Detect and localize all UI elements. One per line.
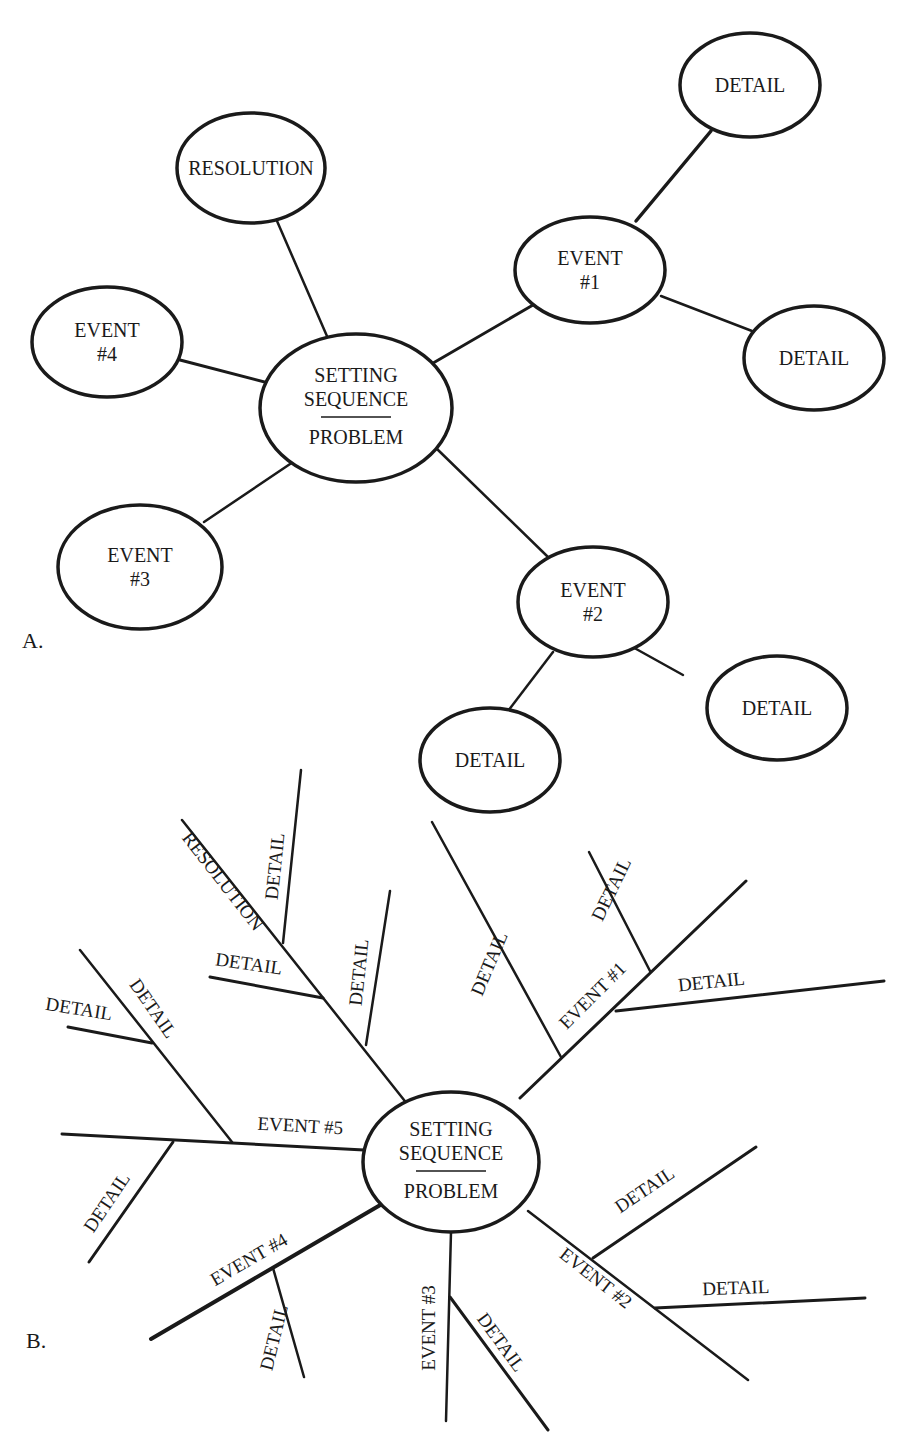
branch-event1-detail-right: [616, 981, 884, 1011]
branch-label: DETAIL: [255, 1302, 292, 1372]
node-label: #1: [580, 271, 600, 293]
branch-label: DETAIL: [214, 948, 283, 978]
branch-event3-detail: [450, 1297, 548, 1430]
branch-event5-detail-upper-sub: [68, 1027, 152, 1043]
node-label: SEQUENCE: [304, 388, 408, 410]
node-label: EVENT: [557, 247, 623, 269]
branch-event2-detail-lower: [655, 1298, 865, 1308]
node-detail1a: DETAIL: [680, 33, 820, 137]
node-ellipse: [32, 287, 182, 397]
node-event2: EVENT#2: [518, 547, 668, 657]
branch-label: DETAIL: [125, 975, 181, 1042]
branch-label: DETAIL: [44, 993, 114, 1024]
node-label: SETTING: [314, 364, 397, 386]
branch-resolution-detail-right: [366, 891, 390, 1045]
branch-label: DETAIL: [261, 832, 289, 901]
node-resolution: RESOLUTION: [177, 113, 325, 223]
node-label: SEQUENCE: [399, 1142, 503, 1164]
branch-label: EVENT #1: [555, 958, 630, 1033]
connector-line: [436, 448, 548, 557]
branch-label: DETAIL: [702, 1276, 770, 1299]
connector-line: [636, 131, 711, 221]
branch-event4-spine: [151, 1204, 382, 1339]
connector-line: [629, 645, 683, 675]
node-ellipse: [515, 217, 665, 323]
node-label: #3: [130, 568, 150, 590]
node-event1: EVENT#1: [515, 217, 665, 323]
branch-event5-detail-upper: [80, 950, 232, 1142]
node-detail2b: DETAIL: [420, 708, 560, 812]
node-label: RESOLUTION: [188, 157, 314, 179]
branch-label: EVENT #5: [257, 1113, 344, 1138]
node-label: DETAIL: [455, 749, 526, 771]
branch-label: DETAIL: [79, 1169, 134, 1236]
node-ellipse: [518, 547, 668, 657]
node-label: PROBLEM: [309, 426, 404, 448]
panel-a-label: A.: [22, 628, 43, 654]
node-label: DETAIL: [715, 74, 786, 96]
connector-line: [204, 460, 296, 522]
node-detail1b: DETAIL: [744, 306, 884, 410]
node-ellipse: [58, 505, 222, 629]
panel-b-label: B.: [26, 1328, 46, 1354]
panel-a-ellipse-map: SETTINGSEQUENCEPROBLEMRESOLUTIONEVENT#1E…: [32, 33, 884, 812]
branch-label: DETAIL: [611, 1162, 678, 1217]
branch-label: EVENT #2: [556, 1243, 636, 1312]
node-label: DETAIL: [779, 347, 850, 369]
node-label: EVENT: [560, 579, 626, 601]
connector-line: [508, 652, 553, 711]
connector-line: [661, 296, 752, 331]
branch-label: DETAIL: [345, 938, 373, 1007]
node-label: SETTING: [409, 1118, 492, 1140]
panel-b-branch-map: SETTINGSEQUENCEPROBLEM RESOLUTIONDETAILD…: [44, 770, 884, 1430]
branch-resolution-detail-left: [210, 977, 323, 998]
node-center: SETTINGSEQUENCEPROBLEM: [363, 1092, 539, 1232]
node-label: DETAIL: [742, 697, 813, 719]
node-detail2a: DETAIL: [707, 656, 847, 760]
node-label: EVENT: [74, 319, 140, 341]
node-center: SETTINGSEQUENCEPROBLEM: [260, 334, 452, 482]
panel-b-center-node: SETTINGSEQUENCEPROBLEM: [363, 1092, 539, 1232]
branch-event3-spine: [446, 1232, 451, 1421]
panel-a-nodes: SETTINGSEQUENCEPROBLEMRESOLUTIONEVENT#1E…: [32, 33, 884, 812]
connector-line: [277, 221, 333, 350]
node-label: PROBLEM: [404, 1180, 499, 1202]
node-label: #4: [97, 343, 117, 365]
node-label: EVENT: [107, 544, 173, 566]
node-event3: EVENT#3: [58, 505, 222, 629]
node-event4: EVENT#4: [32, 287, 182, 397]
node-label: #2: [583, 603, 603, 625]
branch-label: DETAIL: [466, 928, 512, 998]
connector-line: [428, 305, 533, 366]
story-map-diagram: SETTINGSEQUENCEPROBLEMRESOLUTIONEVENT#1E…: [0, 0, 909, 1440]
branch-label: DETAIL: [677, 968, 746, 996]
branch-label: RESOLUTION: [178, 828, 268, 935]
branch-label: EVENT #3: [418, 1285, 439, 1371]
